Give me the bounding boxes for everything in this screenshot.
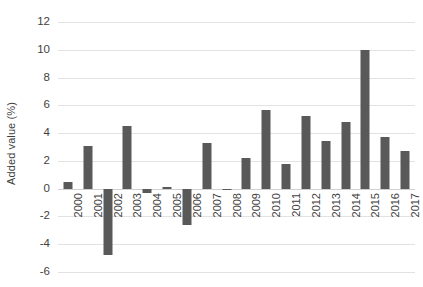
- bar-slot: [316, 22, 336, 272]
- bar-slot: [296, 22, 316, 272]
- x-tick-label: 2015: [370, 193, 381, 217]
- bar-slot: [78, 22, 98, 272]
- bar[interactable]: [381, 137, 390, 188]
- bar[interactable]: [301, 116, 310, 188]
- x-tick-label: 2009: [251, 193, 262, 217]
- x-tick-label: 2003: [132, 193, 143, 217]
- bar[interactable]: [123, 126, 132, 189]
- x-tick-label: 2010: [271, 193, 282, 217]
- x-tick-label: 2017: [410, 193, 421, 217]
- bars-layer: [58, 22, 415, 272]
- x-tick-label: 2000: [73, 193, 84, 217]
- x-tick-label: 2007: [212, 193, 223, 217]
- bar-slot: [197, 22, 217, 272]
- bar-slot: [256, 22, 276, 272]
- y-tick-label: 12: [4, 16, 50, 28]
- bar-slot: [356, 22, 376, 272]
- y-tick-label: 4: [4, 127, 50, 139]
- y-tick-label: -4: [4, 238, 50, 250]
- bar-slot: [177, 22, 197, 272]
- x-tick-label: 2001: [93, 193, 104, 217]
- bar[interactable]: [341, 122, 350, 189]
- x-tick-label: 2004: [152, 193, 163, 217]
- bar[interactable]: [222, 189, 231, 191]
- x-tick-label: 2012: [311, 193, 322, 217]
- bar[interactable]: [361, 50, 370, 189]
- x-tick-label: 2013: [331, 193, 342, 217]
- bar[interactable]: [321, 141, 330, 188]
- bar[interactable]: [401, 151, 410, 189]
- y-tick-label: 6: [4, 100, 50, 112]
- bar-slot: [237, 22, 257, 272]
- x-tick-label: 2016: [390, 193, 401, 217]
- bar[interactable]: [163, 187, 172, 189]
- bar[interactable]: [282, 164, 291, 188]
- bar[interactable]: [262, 110, 271, 189]
- y-tick-label: 8: [4, 72, 50, 84]
- y-tick-label: -6: [4, 266, 50, 278]
- bar-slot: [375, 22, 395, 272]
- x-tick-label: 2006: [192, 193, 203, 217]
- bar-slot: [98, 22, 118, 272]
- gridline--6: [58, 272, 415, 273]
- x-tick-label: 2008: [232, 193, 243, 217]
- bar[interactable]: [143, 189, 152, 193]
- x-tick-label: 2005: [172, 193, 183, 217]
- bar[interactable]: [63, 182, 72, 189]
- bar-slot: [157, 22, 177, 272]
- bar-slot: [118, 22, 138, 272]
- x-tick-label: 2011: [291, 193, 302, 217]
- bar[interactable]: [242, 158, 251, 189]
- bar-slot: [276, 22, 296, 272]
- bar[interactable]: [202, 143, 211, 189]
- y-tick-label: -2: [4, 211, 50, 223]
- bar-chart: Added value (%) 121086420-2-4-6 20002001…: [0, 0, 423, 287]
- x-tick-label: 2014: [351, 193, 362, 217]
- bar[interactable]: [83, 146, 92, 189]
- bar-slot: [217, 22, 237, 272]
- bar-slot: [58, 22, 78, 272]
- bar-slot: [336, 22, 356, 272]
- bar-slot: [137, 22, 157, 272]
- y-tick-label: 10: [4, 44, 50, 56]
- y-tick-label: 2: [4, 155, 50, 167]
- bar[interactable]: [103, 189, 112, 256]
- bar-slot: [395, 22, 415, 272]
- x-tick-label: 2002: [113, 193, 124, 217]
- y-tick-label: 0: [4, 183, 50, 195]
- plot-area: [58, 22, 415, 272]
